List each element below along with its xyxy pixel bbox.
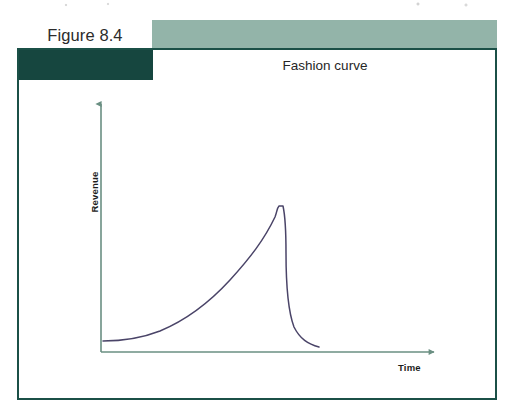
banner-bar-light — [152, 20, 497, 48]
fashion-curve-path — [103, 206, 319, 347]
chart-title: Fashion curve — [153, 52, 497, 80]
figure-container: Figure 8.4 Fashion curve Revenue Time — [0, 0, 511, 417]
figure-caption: Figure 8.4 — [17, 22, 153, 48]
scan-noise-artifacts — [0, 0, 511, 14]
x-axis-title: Time — [398, 362, 421, 373]
y-axis-title: Revenue — [89, 162, 103, 222]
chart-svg — [80, 90, 460, 375]
plot-area — [80, 90, 460, 375]
